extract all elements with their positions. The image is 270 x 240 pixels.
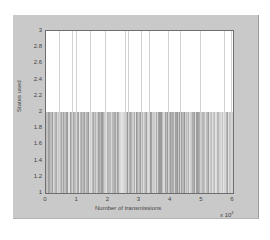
x-tick-label: 6 [227, 196, 237, 202]
data-stem-tall [125, 31, 126, 193]
data-stem-tall [105, 31, 106, 193]
data-stem-tall [180, 31, 181, 193]
x-tick-label: 0 [40, 196, 50, 202]
data-stem-tall [231, 31, 232, 193]
data-stem-tall [141, 31, 142, 193]
x-axis-label: Number of transmissions [95, 205, 161, 211]
y-tick-label: 2.2 [26, 92, 42, 98]
y-tick-label: 2.4 [26, 76, 42, 82]
y-tick-label: 1.2 [26, 173, 42, 179]
x-tick-label: 4 [165, 196, 175, 202]
y-axis-label: States used [16, 80, 22, 112]
y-tick-label: 1.4 [26, 157, 42, 163]
data-stem-tall [200, 31, 201, 193]
x-axis-multiplier: x 104 [220, 210, 234, 218]
y-tick-label: 1.8 [26, 124, 42, 130]
y-tick-label: 3 [26, 27, 42, 33]
x-tick-label: 1 [71, 196, 81, 202]
x-tick-label: 3 [134, 196, 144, 202]
data-stem-tall [149, 31, 150, 193]
x-tick-label: 2 [102, 196, 112, 202]
y-tick-label: 2.8 [26, 43, 42, 49]
data-stem-tall [76, 31, 77, 193]
data-stem-tall [168, 31, 169, 193]
data-stem-tall [128, 31, 129, 193]
data-stem-tall [90, 31, 91, 193]
plot-area [45, 30, 234, 194]
y-tick-label: 1.6 [26, 140, 42, 146]
data-stem-tall [59, 31, 60, 193]
y-tick-label: 2.6 [26, 59, 42, 65]
data-stem-tall [224, 31, 225, 193]
y-tick-label: 2 [26, 108, 42, 114]
y-tick-label: 1 [26, 189, 42, 195]
x-tick-label: 5 [196, 196, 206, 202]
data-stem-tall [72, 31, 73, 193]
